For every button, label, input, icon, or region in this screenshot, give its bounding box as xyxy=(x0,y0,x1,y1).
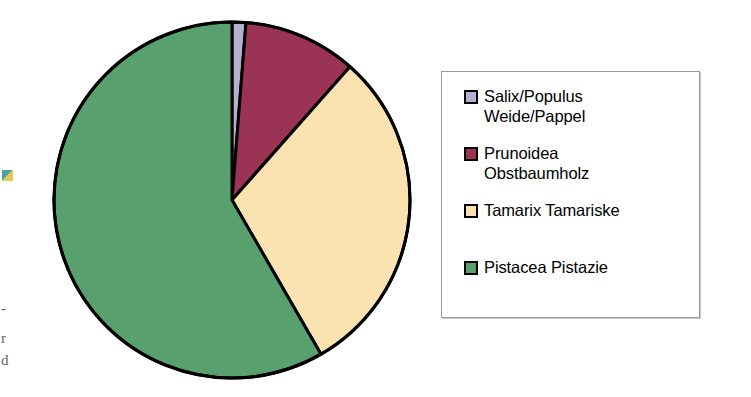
legend-swatch-salix-populus xyxy=(464,90,478,104)
pie-chart-svg xyxy=(0,0,440,397)
pie-slice-group xyxy=(54,22,410,378)
legend-swatch-prunoidea xyxy=(464,147,478,161)
page-edge-color-mark xyxy=(2,170,13,181)
legend-item-salix-populus[interactable]: Salix/Populus Weide/Pappel xyxy=(464,86,585,126)
legend-label-pistacea: Pistacea Pistazie xyxy=(484,257,608,277)
page-edge-clipped-letter-1: r xyxy=(1,330,6,347)
legend-item-tamarix[interactable]: Tamarix Tamariske xyxy=(464,200,620,220)
legend-swatch-pistacea xyxy=(464,261,478,275)
legend-swatch-tamarix xyxy=(464,204,478,218)
page-edge-clipped-dash: - xyxy=(1,300,6,317)
page-edge-clipped-letter-2: d xyxy=(1,352,9,369)
pie-chart xyxy=(0,0,440,397)
legend-label-tamarix: Tamarix Tamariske xyxy=(484,200,620,220)
legend-label-salix-populus: Salix/Populus Weide/Pappel xyxy=(484,86,585,126)
chart-legend: Salix/Populus Weide/Pappel Prunoidea Obs… xyxy=(441,71,700,318)
legend-label-prunoidea: Prunoidea Obstbaumholz xyxy=(484,143,589,183)
legend-item-pistacea[interactable]: Pistacea Pistazie xyxy=(464,257,608,277)
legend-item-prunoidea[interactable]: Prunoidea Obstbaumholz xyxy=(464,143,589,183)
pie-chart-page: Salix/Populus Weide/Pappel Prunoidea Obs… xyxy=(0,0,751,397)
